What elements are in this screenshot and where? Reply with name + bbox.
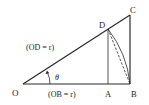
point-label-a: A (105, 89, 112, 99)
label-od-equals-r: (OD = r) (26, 43, 54, 52)
trig-diagram: O A B C D (OD = r) (OB = r) θ (0, 0, 149, 105)
theta-arrowhead-icon (46, 71, 50, 75)
point-label-b: B (131, 89, 137, 99)
point-label-d: D (99, 20, 105, 30)
theta-angle-arc (48, 73, 51, 85)
label-theta: θ (55, 73, 59, 82)
chord-db-dashed (108, 29, 130, 84)
point-label-c: C (130, 5, 136, 15)
label-ob-equals-r: (OB = r) (48, 90, 76, 99)
point-label-o: O (12, 88, 19, 98)
